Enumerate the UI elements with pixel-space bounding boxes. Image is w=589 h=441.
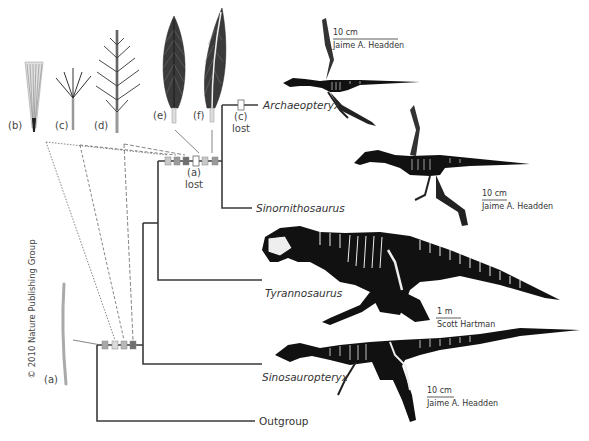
node-loss-feather-c: (c) (234, 112, 247, 122)
taxon-sinornithosaurus: Sinornithosaurus (256, 203, 345, 214)
character-box-a-light (165, 157, 171, 165)
taxon-outgroup: Outgroup (259, 416, 309, 427)
connector-d (124, 144, 133, 340)
character-box-f (212, 157, 218, 165)
connector-e (175, 130, 199, 153)
skeleton-tyrannosaurus (262, 226, 560, 325)
connector-c-top (80, 145, 176, 155)
feather-illustrations (25, 8, 226, 384)
taxon-archaeopteryx: Archaeopteryx (263, 100, 340, 111)
feather-d-icon (96, 30, 140, 133)
scale-label-sinornithosaurus: 10 cm (482, 190, 507, 198)
character-box-a (102, 341, 108, 349)
scale-label-archaeopteryx: 10 cm (333, 29, 358, 37)
feather-label-b: (b) (8, 121, 22, 131)
character-box-c-lost (238, 100, 244, 110)
node-loss-note-c: lost (232, 124, 250, 134)
feather-label-f: (f) (193, 111, 204, 121)
character-box-c (121, 341, 127, 349)
node-loss-note-a: lost (185, 180, 203, 190)
connector-c (80, 145, 124, 340)
character-box-b (112, 341, 118, 349)
branch-tyrannosaurus (158, 161, 262, 280)
character-box-b-mid (174, 157, 180, 165)
branch-outgroup (97, 345, 255, 421)
feather-b-icon (25, 62, 43, 132)
character-box-a-lost (193, 156, 199, 166)
feather-e-icon (163, 16, 185, 123)
character-box-d (130, 341, 136, 349)
scale-label-tyrannosaurus: 1 m (437, 308, 452, 316)
node-loss-feather-a: (a) (187, 168, 201, 178)
feather-label-c: (c) (55, 121, 68, 131)
branch-node2 (143, 223, 262, 364)
credit-tyrannosaurus: Scott Hartman (437, 321, 495, 329)
connector-a (73, 340, 101, 345)
connector-b (46, 142, 115, 340)
feather-a-icon (63, 284, 66, 384)
credit-archaeopteryx: Jaime A. Headden (333, 42, 404, 50)
taxon-tyrannosaurus: Tyrannosaurus (265, 288, 342, 299)
character-box-e (202, 157, 208, 165)
feather-label-d: (d) (94, 121, 108, 131)
cladogram-branches (97, 105, 262, 421)
feather-label-e: (e) (153, 111, 167, 121)
character-box-c-dark (183, 157, 189, 165)
credit-sinornithosaurus: Jaime A. Headden (482, 203, 553, 211)
scale-label-sinosauropteryx: 10 cm (427, 387, 452, 395)
copyright-notice: © 2010 Nature Publishing Group (27, 229, 37, 389)
credit-sinosauropteryx: Jaime A. Headden (427, 400, 498, 408)
taxon-sinosauropteryx: Sinosauropteryx (262, 372, 348, 383)
feather-label-a: (a) (44, 375, 58, 385)
